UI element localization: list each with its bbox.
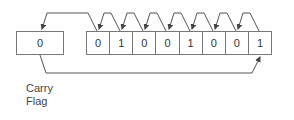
register-bit: 0	[156, 32, 179, 54]
register-bit: 0	[133, 32, 156, 54]
carry-label-line2: Flag	[26, 95, 53, 108]
shift-arrows	[99, 13, 259, 31]
register-bit: 0	[203, 32, 226, 54]
carry-flag-label: Carry Flag	[26, 82, 53, 108]
carry-label-line1: Carry	[26, 82, 53, 95]
register-bit: 0	[87, 32, 110, 54]
register-bit: 1	[249, 32, 271, 54]
register: 0 1 0 0 1 0 0 1	[86, 31, 272, 55]
arrow-to-carry	[42, 13, 97, 31]
arrow-carry-to-lsb	[40, 55, 260, 73]
carry-flag-value: 0	[37, 37, 43, 49]
register-bit: 1	[180, 32, 203, 54]
register-bit: 0	[226, 32, 249, 54]
carry-flag-box: 0	[16, 31, 64, 55]
register-bit: 1	[110, 32, 133, 54]
